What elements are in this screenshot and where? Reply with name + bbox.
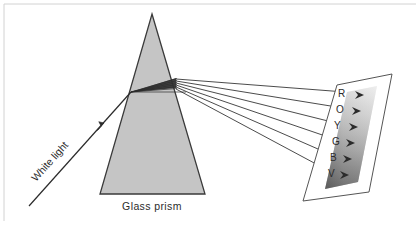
optics-diagram: White light	[0, 0, 420, 225]
spectrum-label-R: R	[338, 88, 345, 99]
figure-canvas: White light	[0, 0, 420, 225]
dispersed-ray-violet	[176, 89, 331, 172]
spectrum-label-Y: Y	[334, 120, 341, 131]
white-light-label: White light	[29, 139, 71, 184]
prism-body	[100, 14, 205, 194]
spectrum-label-O: O	[336, 104, 344, 115]
glass-prism	[100, 14, 205, 194]
spectrum-label-G: G	[332, 136, 340, 147]
dispersed-ray-blue	[176, 87, 334, 156]
spectrum-label-B: B	[330, 152, 337, 163]
projection-screen	[303, 74, 392, 201]
glass-prism-label: Glass prism	[122, 200, 182, 212]
spectrum-label-V: V	[328, 168, 335, 179]
